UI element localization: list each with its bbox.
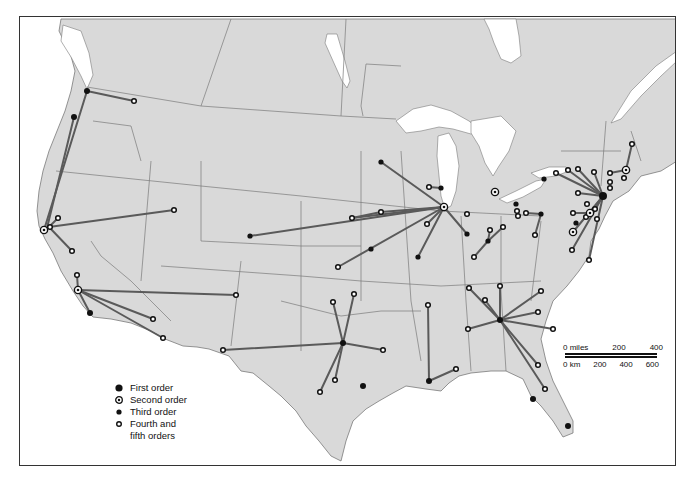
legend-item-second-order: Second order [112, 394, 187, 406]
legend-item-third-order: Third order [112, 406, 187, 418]
scale-bar: 0 miles 200 400 0 km 200 400 600 [563, 343, 663, 369]
second-order-icon [112, 395, 126, 405]
legend-item-first-order: First order [112, 382, 187, 394]
scale-km-labels: 0 km 200 400 600 [563, 360, 663, 369]
scale-bars [563, 353, 663, 359]
first-order-icon [112, 383, 126, 393]
legend-item-fourth-fifth-order: Fourth and [112, 418, 187, 430]
scale-miles-labels: 0 miles 200 400 [563, 343, 663, 352]
legend: First order Second order Third order Fou… [112, 382, 187, 442]
fourth-fifth-order-icon [112, 419, 126, 429]
legend-item-fourth-fifth-order-cont: fifth orders [112, 430, 187, 442]
third-order-icon [112, 407, 126, 417]
